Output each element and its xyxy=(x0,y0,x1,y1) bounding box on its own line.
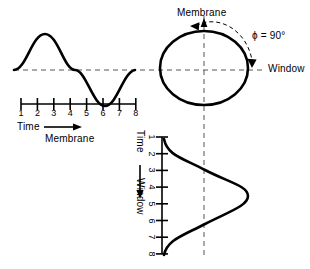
tick-label-h-1: 1 xyxy=(16,108,26,118)
tick-label-v-1: 1 xyxy=(147,132,157,142)
tick-label-h-7: 7 xyxy=(114,108,124,118)
tick-label-v-3: 3 xyxy=(147,165,157,175)
tick-label-h-6: 6 xyxy=(98,108,108,118)
phase-annotation: ϕ = 90° xyxy=(252,31,286,41)
tick-label-v-2: 2 xyxy=(147,149,157,159)
membrane-series-label: Membrane xyxy=(45,134,94,144)
tick-label-h-8: 8 xyxy=(131,108,141,118)
window-series-label: Window xyxy=(135,178,146,215)
tick-label-h-2: 2 xyxy=(32,108,42,118)
tick-label-v-5: 5 xyxy=(147,199,157,209)
window-cosine-curve-main xyxy=(164,139,248,255)
tick-label-h-3: 3 xyxy=(49,108,59,118)
tick-label-v-7: 7 xyxy=(147,232,157,242)
figure-root: " arrow --> xyxy=(0,0,310,269)
tick-label-v-4: 4 xyxy=(147,182,157,192)
tick-label-v-8: 8 xyxy=(147,249,157,259)
tick-label-h-5: 5 xyxy=(82,108,92,118)
arrow-right-icon xyxy=(44,123,82,130)
vertical-time-axis xyxy=(156,137,168,254)
lissajous-ellipse-curve xyxy=(160,31,248,105)
time-axis-label-vertical: Time xyxy=(135,130,146,153)
phase-arrow-head-start xyxy=(190,22,199,30)
tick-label-v-6: 6 xyxy=(147,216,157,226)
window-axis-label: Window xyxy=(268,64,305,74)
membrane-axis-label: Membrane xyxy=(177,8,226,18)
time-axis-label-horizontal: Time xyxy=(17,122,40,132)
tick-label-h-4: 4 xyxy=(65,108,75,118)
